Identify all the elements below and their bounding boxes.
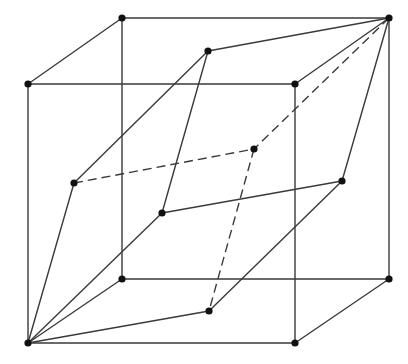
vertex-inner-right xyxy=(338,177,345,184)
vertex-inner-left xyxy=(70,179,77,186)
edge-cube-back-top-right-to-cube-front-top-right xyxy=(295,18,389,84)
edge-inner-top-to-inner-left xyxy=(74,51,208,183)
edge-inner-left-to-cube-front-bottom-left xyxy=(28,183,74,343)
edge-cube-back-bottom-left-to-cube-front-bottom-left xyxy=(28,279,122,343)
vertex-inner-bottom xyxy=(205,307,212,314)
vertex-inner-front xyxy=(158,209,165,216)
vertex-cube-front-top-left xyxy=(24,80,31,87)
cube-rhombohedron-figure xyxy=(0,0,408,364)
edge-inner-left-to-inner-back xyxy=(74,149,254,183)
vertex-cube-front-bottom-right xyxy=(291,339,298,346)
vertex-inner-back xyxy=(250,145,257,152)
diagram-canvas: Rhombohedron inscribed in a cube (wirefr… xyxy=(0,0,408,364)
vertex-inner-top xyxy=(204,47,211,54)
vertex-cube-back-bottom-right xyxy=(385,275,392,282)
edge-cube-back-top-right-to-inner-top xyxy=(208,18,389,51)
vertex-cube-back-top-left xyxy=(118,14,125,21)
vertex-cube-back-bottom-left xyxy=(118,275,125,282)
edge-cube-back-top-right-to-inner-right xyxy=(342,18,389,181)
vertex-cube-front-bottom-left xyxy=(24,339,31,346)
vertex-group xyxy=(24,14,392,346)
edge-inner-back-to-inner-bottom xyxy=(209,149,254,311)
vertex-cube-front-top-right xyxy=(291,80,298,87)
edge-cube-back-bottom-right-to-cube-front-bottom-right xyxy=(295,279,389,343)
edge-inner-top-to-inner-front xyxy=(162,51,208,213)
edge-cube-back-top-left-to-cube-front-top-left xyxy=(28,18,122,84)
vertex-cube-back-top-right xyxy=(385,14,392,21)
edge-group xyxy=(28,18,389,343)
